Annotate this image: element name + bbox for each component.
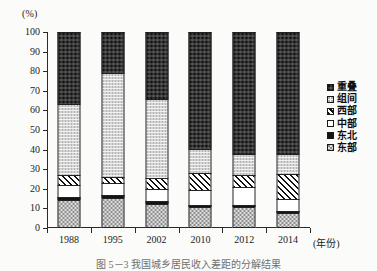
- y-axis-tick-label: 90: [30, 47, 40, 57]
- bar-segment-dongbu: [145, 204, 168, 229]
- bar-segment-dongbu: [101, 198, 124, 228]
- legend-item-label: 重叠: [337, 82, 357, 92]
- legend-item-dongbei[interactable]: 东北: [327, 131, 357, 141]
- y-axis-tick-label: 10: [30, 203, 40, 213]
- x-axis-tick-label: 2010: [190, 234, 210, 245]
- bar-segment-chongdie: [233, 32, 256, 154]
- bar-segment-xibu: [189, 173, 212, 190]
- x-axis-tick: [47, 228, 48, 233]
- y-axis-tick-label: 60: [30, 105, 40, 115]
- bar-segment-dongbei: [101, 195, 124, 198]
- bar-1995: [101, 32, 124, 228]
- legend-item-zhongbu[interactable]: 中部: [327, 119, 357, 129]
- y-axis-tick-label: 40: [30, 145, 40, 155]
- y-axis-tick: [43, 71, 48, 72]
- bar-2010: [189, 32, 212, 228]
- bar-segment-chongdie: [57, 32, 80, 104]
- x-axis-tick-label: 1988: [59, 234, 79, 245]
- plot-area: 0102030405060708090100198819952002201020…: [47, 32, 310, 228]
- x-axis-tick: [266, 228, 267, 233]
- legend-item-label: 东北: [337, 131, 357, 141]
- bar-segment-xibu: [277, 174, 300, 199]
- y-axis-line: [47, 32, 48, 228]
- figure-caption: 图 5－3 我国城乡居民收入差距的分解结果: [0, 256, 377, 271]
- bar-segment-xibu: [233, 175, 256, 187]
- y-axis-tick-label: 20: [30, 184, 40, 194]
- legend-item-label: 西部: [337, 106, 357, 116]
- y-axis-tick-label: 50: [30, 125, 40, 135]
- bar-2014: [277, 32, 300, 228]
- legend-swatch-icon: [327, 84, 334, 91]
- x-axis-tick: [222, 228, 223, 233]
- y-axis-tick-label: 0: [35, 223, 40, 233]
- legend-item-chongdie[interactable]: 重叠: [327, 82, 357, 92]
- y-axis-unit-label: (%): [22, 8, 38, 19]
- bar-2002: [145, 32, 168, 228]
- y-axis-tick: [43, 32, 48, 33]
- bar-segment-zujian: [57, 104, 80, 176]
- y-axis-tick: [43, 208, 48, 209]
- x-axis-tick-label: 2012: [234, 234, 254, 245]
- x-axis-tick: [179, 228, 180, 233]
- chart-legend: 重叠组间西部中部东北东部: [327, 82, 357, 153]
- bar-segment-dongbei: [277, 211, 300, 213]
- legend-item-label: 中部: [337, 119, 357, 129]
- y-axis-tick: [43, 110, 48, 111]
- bar-segment-dongbu: [57, 200, 80, 228]
- legend-swatch-icon: [327, 132, 334, 139]
- bar-segment-zhongbu: [189, 190, 212, 206]
- legend-swatch-icon: [327, 96, 334, 103]
- bar-segment-dongbei: [189, 205, 212, 207]
- bar-segment-chongdie: [277, 32, 300, 154]
- bar-segment-chongdie: [189, 32, 212, 149]
- bar-segment-zujian: [189, 149, 212, 174]
- y-axis-tick-label: 80: [30, 66, 40, 76]
- bar-segment-xibu: [145, 178, 168, 189]
- y-axis-tick: [43, 169, 48, 170]
- legend-swatch-icon: [327, 144, 334, 151]
- legend-item-label: 组间: [337, 94, 357, 104]
- y-axis-tick-label: 100: [25, 27, 40, 37]
- bar-segment-zhongbu: [145, 189, 168, 201]
- legend-item-dongbu[interactable]: 东部: [327, 143, 357, 153]
- bar-segment-zujian: [101, 73, 124, 177]
- y-axis-tick: [43, 52, 48, 53]
- y-axis-tick-label: 70: [30, 86, 40, 96]
- x-axis-title: (年份): [313, 235, 340, 250]
- bar-segment-dongbu: [277, 213, 300, 228]
- bar-segment-chongdie: [145, 32, 168, 99]
- bar-segment-zhongbu: [101, 183, 124, 195]
- bar-segment-dongbei: [233, 205, 256, 207]
- bar-segment-dongbei: [57, 197, 80, 200]
- bar-2012: [233, 32, 256, 228]
- bar-segment-dongbei: [145, 201, 168, 204]
- bar-segment-xibu: [57, 175, 80, 185]
- y-axis-tick: [43, 150, 48, 151]
- y-axis-tick: [43, 189, 48, 190]
- legend-item-label: 东部: [337, 143, 357, 153]
- bar-segment-dongbu: [233, 207, 256, 228]
- x-axis-tick-label: 2002: [147, 234, 167, 245]
- y-axis-tick-label: 30: [30, 164, 40, 174]
- x-axis-tick-label: 1995: [103, 234, 123, 245]
- legend-swatch-icon: [327, 108, 334, 115]
- y-axis-tick: [43, 130, 48, 131]
- bar-segment-dongbu: [189, 207, 212, 228]
- x-axis-tick: [135, 228, 136, 233]
- x-axis-tick-label: 2014: [278, 234, 298, 245]
- bar-segment-zhongbu: [57, 185, 80, 197]
- legend-swatch-icon: [327, 120, 334, 127]
- y-axis-tick: [43, 91, 48, 92]
- x-axis-tick: [91, 228, 92, 233]
- x-axis-tick: [310, 228, 311, 233]
- bar-segment-chongdie: [101, 32, 124, 73]
- legend-item-zujian[interactable]: 组间: [327, 94, 357, 104]
- bar-segment-zhongbu: [277, 199, 300, 212]
- bar-segment-zujian: [233, 154, 256, 176]
- legend-item-xibu[interactable]: 西部: [327, 106, 357, 116]
- bar-segment-zujian: [277, 154, 300, 175]
- bar-1988: [57, 32, 80, 228]
- bar-segment-xibu: [101, 177, 124, 183]
- bar-segment-zhongbu: [233, 187, 256, 206]
